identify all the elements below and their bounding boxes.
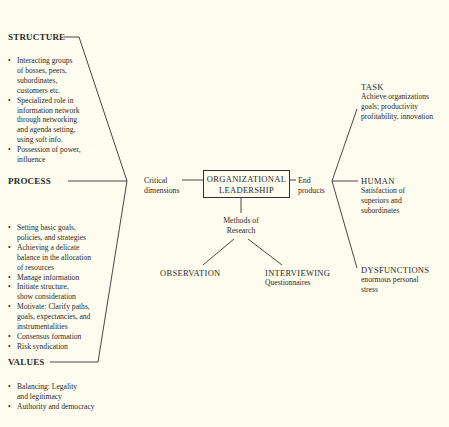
- methods-of-research-label: Methods of Research: [213, 216, 269, 236]
- observation-label: OBSERVATION: [160, 268, 221, 278]
- structure-item: Possession of power, influence: [8, 145, 81, 165]
- interviewing-label: INTERVIEWING: [265, 268, 330, 278]
- dysfunctions-connector: [332, 181, 357, 268]
- process-item: Initiate structure, show consideration: [8, 282, 91, 302]
- values-item: Authority and democracy: [8, 402, 95, 412]
- process-title: PROCESS: [8, 176, 51, 186]
- process-list: Setting basic goals, policies, and strat…: [8, 223, 91, 352]
- human-block: HUMAN Satisfaction of superiors and subo…: [361, 176, 405, 216]
- structure-title: STRUCTURE: [8, 32, 65, 42]
- structure-item: Specialized role in information network …: [8, 96, 81, 146]
- structure-list: Interacting groups of bosses, peers, sub…: [8, 56, 81, 165]
- process-item: Risk syndication: [8, 342, 91, 352]
- process-item: Motivate: Clarify paths, goals, expectan…: [8, 302, 91, 332]
- task-connector: [332, 109, 357, 181]
- critical-dimensions-label: Critical dimensions: [144, 176, 180, 196]
- observation-link: [203, 239, 234, 265]
- process-item: Setting basic goals, policies, and strat…: [8, 223, 91, 243]
- process-item: Manage information: [8, 273, 91, 283]
- task-block: TASK Achieve organizations goals; produc…: [361, 82, 433, 122]
- process-item: Consensus formation: [8, 332, 91, 342]
- dysfunctions-block: DYSFUNCTIONS enormous personal stress: [361, 265, 429, 295]
- interviewing-link: [248, 239, 282, 265]
- end-products-label: End products: [298, 176, 325, 196]
- organizational-leadership-box: ORGANIZATIONAL LEADERSHIP: [203, 170, 290, 198]
- values-title: VALUES: [8, 357, 45, 367]
- structure-item: Interacting groups of bosses, peers, sub…: [8, 56, 81, 96]
- interviewing-sublabel: Questionnaires: [265, 278, 311, 288]
- task-title: TASK: [361, 82, 433, 92]
- dysfunctions-title: DYSFUNCTIONS: [361, 265, 429, 275]
- process-item: Achieving a delicate balance in the allo…: [8, 243, 91, 273]
- human-title: HUMAN: [361, 176, 405, 186]
- values-list: Balancing: Legality and legitimacy Autho…: [8, 382, 95, 412]
- values-item: Balancing: Legality and legitimacy: [8, 382, 95, 402]
